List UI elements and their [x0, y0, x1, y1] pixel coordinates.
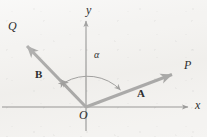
origin-label: O [79, 109, 88, 121]
vector-diagram-figure: Q P B A α O x y [0, 0, 207, 137]
angle-arc [65, 76, 121, 90]
vector-a-group [86, 75, 172, 108]
y-axis-label: y [86, 4, 91, 16]
vector-b-label: B [35, 69, 42, 80]
ray-p-label: P [184, 59, 191, 71]
figure-canvas [0, 0, 207, 137]
vector-a-ray [86, 75, 172, 108]
ray-q-label: Q [8, 20, 17, 32]
angle-alpha-label: α [94, 50, 99, 60]
angle-arc-group [65, 76, 121, 90]
x-axis-label: x [195, 99, 200, 111]
axes-group [2, 21, 188, 131]
vector-a-label: A [137, 88, 145, 99]
